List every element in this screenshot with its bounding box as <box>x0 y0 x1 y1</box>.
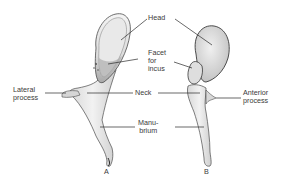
label-head: Head <box>148 14 165 22</box>
label-manubrium: Manu- brium <box>138 119 158 135</box>
label-view-b: B <box>204 168 209 176</box>
malleus-view-b <box>187 26 229 166</box>
anterior-process-b-shape <box>206 90 216 104</box>
label-lateral-process: Lateral process <box>13 86 38 102</box>
label-facet-for-incus: Facet for incus <box>148 49 166 73</box>
malleus-view-a <box>62 14 130 167</box>
label-neck: Neck <box>135 89 151 97</box>
malleus-diagram: Head Facet for incus Lateral process Nec… <box>0 0 287 184</box>
label-anterior-process: Anterior process <box>243 89 268 105</box>
facet-b-shape <box>188 62 203 85</box>
label-view-a: A <box>104 168 109 176</box>
